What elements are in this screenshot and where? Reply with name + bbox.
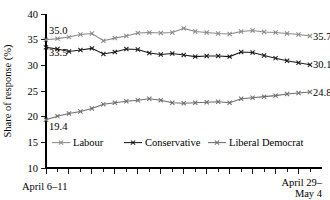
y-axis-title: Share of response (%) xyxy=(2,44,14,138)
y-tick-label-30: 30 xyxy=(28,60,39,71)
start-value-labour: 35.0 xyxy=(49,25,67,36)
legend-item-labour[interactable]: Labour xyxy=(52,137,104,148)
series-labour xyxy=(44,26,312,43)
x-label-end-line1: April 29– xyxy=(281,177,322,188)
start-value-liberal-democrat: 19.4 xyxy=(49,121,68,132)
y-axis: 10152025303540 Share of response (%) xyxy=(2,9,46,174)
legend-item-conservative[interactable]: Conservative xyxy=(124,137,201,148)
y-tick-label-40: 40 xyxy=(28,9,39,20)
value-label-group: 35.035.733.530.119.424.8 xyxy=(49,25,330,132)
series-line xyxy=(46,92,310,120)
series-conservative xyxy=(44,45,312,67)
x-label-start: April 6–11 xyxy=(22,181,67,192)
y-tick-label-35: 35 xyxy=(28,34,39,45)
legend-label: Labour xyxy=(73,137,104,148)
x-label-end-line2: May 4 xyxy=(295,188,323,199)
series-liberal-democrat xyxy=(44,90,312,122)
chart-canvas: 10152025303540 Share of response (%) 35.… xyxy=(0,0,330,200)
end-value-conservative: 30.1 xyxy=(313,59,330,70)
legend-label: Conservative xyxy=(145,137,201,148)
y-tick-label-25: 25 xyxy=(28,86,39,97)
chart-legend: LabourConservativeLiberal Democrat xyxy=(52,137,303,148)
end-value-labour: 35.7 xyxy=(313,31,330,42)
legend-item-liberal-democrat[interactable]: Liberal Democrat xyxy=(208,137,303,148)
series-group xyxy=(44,26,312,122)
y-tick-group: 10152025303540 xyxy=(28,9,47,174)
start-value-conservative: 33.5 xyxy=(49,47,67,58)
series-line xyxy=(46,47,310,64)
x-tick-group xyxy=(46,168,310,174)
y-tick-label-15: 15 xyxy=(28,137,39,148)
x-axis xyxy=(46,168,322,174)
x-category-labels: April 6–11 April 29– May 4 xyxy=(22,177,323,199)
poll-trend-chart: 10152025303540 Share of response (%) 35.… xyxy=(0,0,330,200)
y-tick-label-10: 10 xyxy=(28,163,39,174)
end-value-liberal-democrat: 24.8 xyxy=(313,87,330,98)
legend-label: Liberal Democrat xyxy=(229,137,303,148)
series-line xyxy=(46,28,310,40)
y-tick-label-20: 20 xyxy=(28,111,39,122)
